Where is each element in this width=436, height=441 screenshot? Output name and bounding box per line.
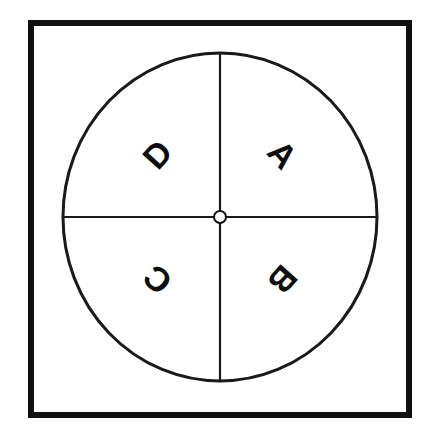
- center-dot: [214, 211, 226, 223]
- circle-diagram-canvas: [0, 0, 436, 441]
- diagram-stage: A B C D: [0, 0, 436, 441]
